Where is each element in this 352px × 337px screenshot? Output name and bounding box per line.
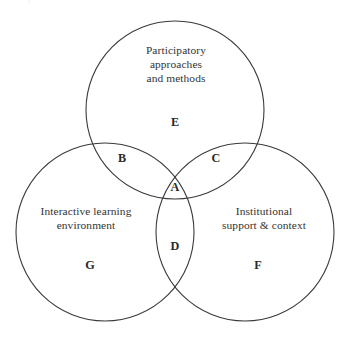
circle-label-participatory-approaches: Participatory approaches and methods [120, 43, 232, 86]
region-label-g: G [80, 259, 100, 271]
venn-diagram-figure: f Participatory approaches and methods I… [0, 0, 352, 337]
region-label-d: D [165, 240, 185, 252]
region-label-b: B [112, 152, 132, 164]
region-label-a: A [165, 181, 185, 193]
circle-label-institutional-support-context: Institutional support & context [198, 204, 330, 232]
region-label-f: F [248, 259, 268, 271]
circle-label-interactive-learning-environment: Interactive learning environment [20, 204, 152, 232]
region-label-e: E [165, 116, 185, 128]
region-label-c: C [206, 152, 226, 164]
